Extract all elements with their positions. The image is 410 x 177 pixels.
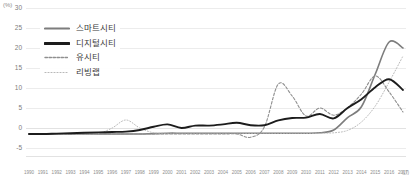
x-axis-line	[26, 156, 406, 157]
y-tick-label: 0	[0, 125, 22, 132]
legend-item-리빙랩[interactable]: 리빙랩	[44, 67, 116, 78]
y-tick-label: 25	[0, 25, 22, 32]
x-tick-label: 2001	[176, 170, 186, 175]
x-tick-label: 2002	[190, 170, 200, 175]
legend-label: 유시티	[76, 53, 100, 62]
x-tick-label: 1993	[65, 170, 75, 175]
legend-item-유시티[interactable]: 유시티	[44, 52, 116, 63]
x-tick-label: 2009	[287, 170, 297, 175]
x-tick-label: 2006	[246, 170, 256, 175]
y-tick-label: 5	[0, 105, 22, 112]
x-tick-label: 2003	[204, 170, 214, 175]
x-tick-label: 2015	[370, 170, 380, 175]
x-tick-label: 1994	[79, 170, 89, 175]
x-tick-label: 1995	[93, 170, 103, 175]
legend-item-디지털시티[interactable]: 디지털시티	[44, 38, 116, 49]
line-chart: (%) 302520151050-5 199019911992199319941…	[0, 0, 410, 177]
x-tick-label: 2016	[384, 170, 394, 175]
x-tick-label: 1997	[121, 170, 131, 175]
x-tick-label: 2014	[356, 170, 366, 175]
y-tick-label: 10	[0, 85, 22, 92]
legend-label: 스마트시티	[76, 24, 116, 33]
y-tick-label: 20	[0, 45, 22, 52]
series-line-유시티	[29, 76, 403, 137]
x-tick-label: 2000	[162, 170, 172, 175]
x-axis-unit-label: (년)	[402, 170, 409, 175]
y-tick-label: 15	[0, 65, 22, 72]
x-tick-label: 1996	[107, 170, 117, 175]
x-tick-label: 2005	[232, 170, 242, 175]
x-tick-label: 1990	[24, 170, 34, 175]
x-tick-label: 2011	[315, 170, 325, 175]
legend-swatch-icon	[44, 24, 70, 33]
legend-item-스마트시티[interactable]: 스마트시티	[44, 23, 116, 34]
y-tick-label: -5	[0, 145, 22, 152]
x-tick-label: 1998	[135, 170, 145, 175]
x-tick-label: 1991	[38, 170, 48, 175]
x-tick-label: 1999	[149, 170, 159, 175]
x-tick-label: 2008	[273, 170, 283, 175]
x-tick-label: 2004	[218, 170, 228, 175]
x-tick-label: 2010	[301, 170, 311, 175]
x-tick-label: 1992	[52, 170, 62, 175]
legend-swatch-icon	[44, 68, 70, 77]
series-line-디지털시티	[29, 79, 403, 134]
x-tick-label: 2007	[259, 170, 269, 175]
gridline--5	[26, 148, 406, 149]
legend-label: 디지털시티	[76, 39, 116, 48]
y-tick-label: 30	[0, 5, 22, 12]
legend-label: 리빙랩	[76, 68, 100, 77]
chart-legend: 스마트시티디지털시티유시티리빙랩	[40, 21, 120, 80]
legend-swatch-icon	[44, 53, 70, 62]
x-tick-label: 2012	[329, 170, 339, 175]
x-tick-label: 2013	[342, 170, 352, 175]
legend-swatch-icon	[44, 39, 70, 48]
